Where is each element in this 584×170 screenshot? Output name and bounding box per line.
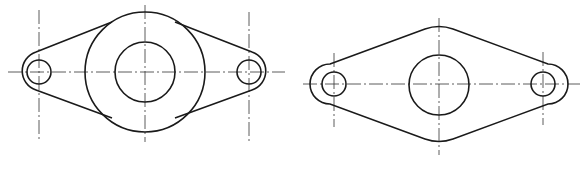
flange-outline (22, 22, 266, 118)
right-flange-view (303, 18, 580, 155)
left-flange-view (8, 5, 285, 142)
technical-drawing (0, 0, 584, 170)
